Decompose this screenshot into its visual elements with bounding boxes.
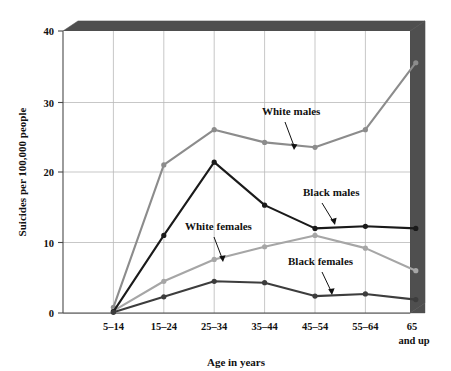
x-tick-label-15-24: 15–24 <box>151 321 178 332</box>
series-label-white-males: White males <box>262 105 321 117</box>
data-point-black-males-5[interactable] <box>363 224 368 229</box>
data-point-white-females-2[interactable] <box>212 257 217 262</box>
x-axis-title: Age in years <box>207 356 266 368</box>
x-tick-label-5-14: 5–14 <box>103 321 125 332</box>
data-point-black-females-2[interactable] <box>212 279 217 284</box>
y-axis-ticks <box>58 31 63 313</box>
series-label-white-females: White females <box>185 220 253 232</box>
data-point-white-females-4[interactable] <box>312 233 317 238</box>
data-point-black-females-3[interactable] <box>262 280 267 285</box>
frame-top-band <box>63 21 425 31</box>
data-point-white-males-6[interactable] <box>413 60 418 65</box>
data-point-black-females-4[interactable] <box>312 293 317 298</box>
x-tick-label-65: 65 <box>407 321 418 332</box>
data-point-white-males-3[interactable] <box>262 140 267 145</box>
data-point-white-females-5[interactable] <box>363 246 368 251</box>
data-point-black-females-5[interactable] <box>363 291 368 296</box>
data-point-white-females-1[interactable] <box>161 279 166 284</box>
x-tick-label-25-34: 25–34 <box>201 321 228 332</box>
series-label-black-females: Black females <box>288 255 354 267</box>
x-tick-label-45-54: 45–54 <box>302 321 329 332</box>
data-point-white-males-4[interactable] <box>312 145 317 150</box>
chart-container: 40 30 20 10 0 Suicides per 100,000 peopl… <box>0 0 451 371</box>
data-point-white-females-3[interactable] <box>262 244 267 249</box>
data-point-black-males-2[interactable] <box>212 160 217 165</box>
data-point-white-males-1[interactable] <box>161 162 166 167</box>
series-label-black-males: Black males <box>303 186 360 198</box>
data-point-black-males-4[interactable] <box>312 226 317 231</box>
data-point-white-males-2[interactable] <box>212 127 217 132</box>
data-point-black-females-6[interactable] <box>413 297 418 302</box>
data-point-white-males-5[interactable] <box>363 127 368 132</box>
x-tick-label-55-64: 55–64 <box>352 321 379 332</box>
y-tick-label-10: 10 <box>44 238 55 249</box>
data-point-black-females-0[interactable] <box>111 310 116 315</box>
y-axis-title: Suicides per 100,000 people <box>16 108 28 237</box>
y-tick-label-20: 20 <box>44 167 55 178</box>
data-point-black-females-1[interactable] <box>161 294 166 299</box>
y-tick-label-40: 40 <box>44 26 55 37</box>
data-point-white-females-6[interactable] <box>413 268 418 273</box>
data-point-black-males-6[interactable] <box>413 226 418 231</box>
x-tick-label-35-44: 35–44 <box>251 321 278 332</box>
suicide-rate-line-chart: 40 30 20 10 0 Suicides per 100,000 peopl… <box>0 0 451 371</box>
x-tick-label-65-and-up: and up <box>398 335 429 346</box>
data-point-black-males-1[interactable] <box>161 233 166 238</box>
data-point-black-males-3[interactable] <box>262 203 267 208</box>
y-tick-label-30: 30 <box>44 98 55 109</box>
y-tick-label-0: 0 <box>49 308 54 319</box>
